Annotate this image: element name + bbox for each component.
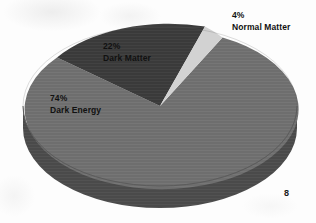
slice-name-dark-matter: Dark Matter [103, 53, 151, 65]
slice-percent-dark-matter: 22% [103, 41, 151, 53]
pie-chart-3d [0, 0, 316, 223]
slice-label-dark-matter: 22% Dark Matter [103, 41, 151, 64]
slice-label-dark-energy: 74% Dark Energy [50, 93, 101, 116]
slice-name-dark-energy: Dark Energy [50, 105, 101, 117]
slice-name-normal-matter: Normal Matter [232, 22, 290, 34]
slide-canvas: 22% Dark Matter 74% Dark Energy 4% Norma… [0, 0, 316, 223]
slice-percent-normal-matter: 4% [232, 10, 290, 22]
slice-percent-dark-energy: 74% [50, 93, 101, 105]
page-number: 8 [284, 188, 289, 198]
slice-label-normal-matter: 4% Normal Matter [232, 10, 290, 33]
